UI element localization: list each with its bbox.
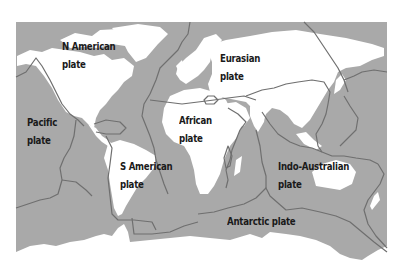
label-s-american-plate: S American plate	[120, 160, 172, 190]
label-n-american-plate: N American plate	[62, 40, 115, 70]
label-indo-australian-plate: Indo-Australian plate	[278, 160, 349, 190]
label-eurasian-plate: Eurasian plate	[220, 52, 260, 82]
label-pacific-plate: Pacific plate	[27, 116, 57, 146]
label-line-2: plate	[220, 70, 260, 82]
label-line-1: Indo-Australian	[278, 160, 349, 172]
label-line-2: plate	[62, 58, 115, 70]
label-antarctic-plate: Antarctic plate	[227, 215, 295, 227]
label-line-1: N American	[62, 40, 115, 52]
label-line-1: Pacific	[27, 116, 57, 128]
label-line-2: plate	[27, 134, 57, 146]
label-african-plate: African plate	[179, 114, 212, 144]
label-line-2: plate	[120, 178, 172, 190]
label-line-2: plate	[278, 178, 349, 190]
label-line-1: Antarctic plate	[227, 215, 295, 227]
label-line-2: plate	[179, 132, 212, 144]
label-line-1: S American	[120, 160, 172, 172]
label-line-1: Eurasian	[220, 52, 260, 64]
label-line-1: African	[179, 114, 212, 126]
